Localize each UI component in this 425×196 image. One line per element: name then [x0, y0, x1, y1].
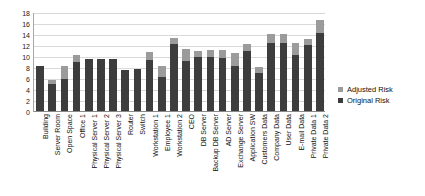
x-label-text: Workstation 2 — [176, 114, 183, 157]
x-label-text: Customers Data — [261, 114, 268, 165]
y-axis-tick-16: 16 — [22, 21, 30, 28]
bar-group-14 — [207, 13, 215, 111]
bar-group-15 — [219, 13, 227, 111]
bar-group-18 — [255, 13, 263, 111]
bar-group-16 — [231, 13, 239, 111]
bar-original-risk — [219, 58, 227, 111]
x-axis-category-labels: BuildingServer RoomOpen SpaceOffice 1Phy… — [33, 114, 325, 196]
y-axis-tick-18: 18 — [22, 10, 30, 17]
bar-original-risk — [194, 57, 202, 111]
x-label-text: AD Server — [225, 114, 232, 146]
bar-group-19 — [267, 13, 275, 111]
bar-original-risk — [316, 33, 324, 111]
y-axis-tick-labels: 024681012141618 — [0, 0, 33, 113]
x-label-19: Company Data — [273, 114, 280, 161]
chart-legend: Adjusted RiskOriginal Risk — [338, 84, 393, 106]
bar-group — [34, 13, 325, 111]
bar-original-risk — [280, 43, 288, 111]
y-axis-tick-10: 10 — [22, 54, 30, 61]
x-label-text: Physical Server 2 — [103, 114, 110, 168]
y-axis-tick-12: 12 — [22, 43, 30, 50]
bar-group-23 — [316, 13, 324, 111]
x-label-text: DB Server — [200, 114, 207, 146]
x-label-13: DB Server — [200, 114, 207, 146]
bar-group-11 — [170, 13, 178, 111]
bar-original-risk — [73, 62, 81, 112]
x-label-text: Open Space — [66, 114, 73, 153]
bar-original-risk — [304, 45, 312, 111]
x-label-text: Exchange Server — [237, 114, 244, 168]
legend-label: Original Risk — [347, 95, 390, 106]
legend-entry-1: Original Risk — [338, 95, 393, 106]
y-axis-tick-0: 0 — [26, 109, 30, 116]
bar-original-risk — [61, 79, 69, 111]
bar-group-3 — [73, 13, 81, 111]
x-label-text: Company Data — [273, 114, 280, 161]
x-label-text: E-mail Data — [298, 114, 305, 151]
legend-entry-0: Adjusted Risk — [338, 84, 393, 95]
x-label-text: Building — [42, 114, 49, 139]
x-label-3: Office 1 — [79, 114, 86, 138]
x-label-text: Employee 1 — [164, 114, 171, 151]
bar-group-1 — [48, 13, 56, 111]
x-label-15: AD Server — [225, 114, 232, 146]
bar-group-7 — [121, 13, 129, 111]
bar-original-risk — [267, 43, 275, 111]
bar-original-risk — [109, 59, 117, 111]
bar-group-4 — [85, 13, 93, 111]
y-axis-tick-8: 8 — [26, 65, 30, 72]
x-label-5: Physical Server 2 — [103, 114, 110, 168]
risk-bar-chart: 024681012141618 BuildingServer RoomOpen … — [0, 0, 425, 196]
x-label-2: Open Space — [66, 114, 73, 153]
x-label-17: Application SW — [249, 114, 256, 161]
x-label-18: Customers Data — [261, 114, 268, 165]
bar-original-risk — [255, 73, 263, 112]
x-label-8: Switch — [139, 114, 146, 135]
bar-group-13 — [194, 13, 202, 111]
legend-swatch-icon — [338, 98, 343, 103]
y-axis-tick-4: 4 — [26, 87, 30, 94]
x-label-1: Server Room — [54, 114, 61, 155]
bar-original-risk — [48, 84, 56, 112]
x-label-16: Exchange Server — [237, 114, 244, 168]
bar-original-risk — [292, 55, 300, 111]
bar-group-2 — [61, 13, 69, 111]
x-label-text: Backup DB Server — [212, 114, 219, 172]
x-label-0: Building — [42, 114, 49, 139]
x-label-text: Physical Server 3 — [115, 114, 122, 168]
bar-original-risk — [121, 70, 129, 111]
x-label-text: Workstation 1 — [152, 114, 159, 157]
x-label-text: Physical Server 1 — [91, 114, 98, 168]
x-label-7: Router — [127, 114, 134, 135]
x-label-14: Backup DB Server — [212, 114, 219, 172]
x-label-21: E-mail Data — [298, 114, 305, 151]
x-label-10: Employee 1 — [164, 114, 171, 151]
bar-original-risk — [134, 69, 142, 111]
y-axis-tick-6: 6 — [26, 76, 30, 83]
bar-group-8 — [134, 13, 142, 111]
bar-group-22 — [304, 13, 312, 111]
legend-label: Adjusted Risk — [347, 84, 393, 95]
x-label-22: Private Data 1 — [310, 114, 317, 158]
x-label-text: Switch — [139, 114, 146, 135]
x-label-12: CEO — [188, 114, 195, 129]
x-label-11: Workstation 2 — [176, 114, 183, 157]
x-label-text: Server Room — [54, 114, 61, 155]
bar-original-risk — [97, 59, 105, 111]
bar-group-6 — [109, 13, 117, 111]
bar-group-17 — [243, 13, 251, 111]
bar-group-20 — [280, 13, 288, 111]
x-label-text: Office 1 — [79, 114, 86, 138]
x-label-text: Private Data 2 — [322, 114, 329, 158]
x-label-4: Physical Server 1 — [91, 114, 98, 168]
bar-original-risk — [243, 51, 251, 112]
y-axis-tick-14: 14 — [22, 32, 30, 39]
bar-group-12 — [182, 13, 190, 111]
bar-original-risk — [231, 66, 239, 111]
plot-area — [33, 13, 325, 112]
x-label-20: User Data — [285, 114, 292, 146]
bar-original-risk — [158, 77, 166, 111]
x-label-text: CEO — [188, 114, 195, 129]
bar-group-5 — [97, 13, 105, 111]
x-label-6: Physical Server 3 — [115, 114, 122, 168]
